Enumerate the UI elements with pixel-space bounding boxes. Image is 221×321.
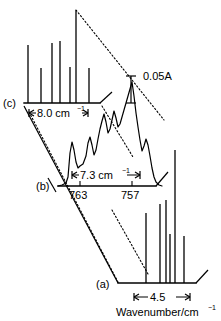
frame-c-right-edge <box>100 92 112 103</box>
spectra-figure: 8.0 cm −1 (c) 7.3 cm −1 <box>0 0 221 321</box>
panel-b-tick-label-right: 757 <box>121 189 139 201</box>
panel-b-scalebar-superscript: −1 <box>122 167 130 174</box>
panel-c-scalebar-superscript: −1 <box>77 105 85 112</box>
bottom-axis-title: Wavenumber/cm −1 <box>116 304 216 318</box>
panel-a-scalebar-label: 4.5 <box>150 291 165 303</box>
intensity-scale-label: 0.05A <box>143 70 172 82</box>
panel-b-scalebar-label: 7.3 cm <box>80 169 113 181</box>
panel-b-tick-label-left: 763 <box>69 189 87 201</box>
panel-c-peaks <box>28 10 89 103</box>
frame-a-right-edge <box>196 270 208 283</box>
panel-c: 8.0 cm −1 (c) <box>3 10 100 119</box>
bottom-axis-title-superscript: −1 <box>208 304 216 311</box>
figure-canvas: 8.0 cm −1 (c) 7.3 cm −1 <box>0 0 221 321</box>
panel-c-label: (c) <box>3 97 16 109</box>
dotted-guide-mid <box>102 106 133 157</box>
bottom-axis-title-text: Wavenumber/cm <box>116 306 199 318</box>
panel-b: 7.3 cm −1 763 757 (b) <box>36 82 162 201</box>
panel-c-scalebar-label: 8.0 cm <box>37 107 70 119</box>
dotted-guide-lower <box>112 210 148 274</box>
panel-a-label: (a) <box>96 278 109 290</box>
panel-b-label: (b) <box>36 180 49 192</box>
panel-a-peaks <box>146 150 184 283</box>
